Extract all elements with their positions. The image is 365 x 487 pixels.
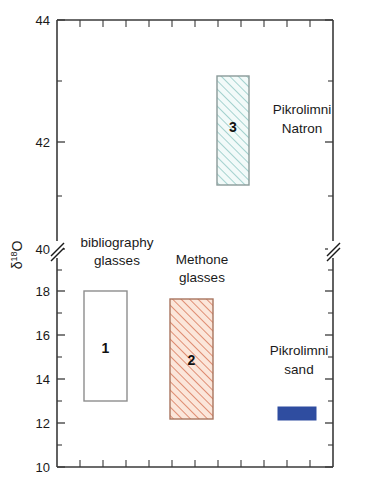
axis-break-left <box>51 241 64 261</box>
y-axis-title: δ18O <box>9 241 25 270</box>
delta-18-o-range-chart: 44 42 40 18 16 14 12 10 δ18O 1 bibliogra… <box>0 0 365 487</box>
y-tick-label-18: 18 <box>36 284 50 299</box>
svg-text:δ18O: δ18O <box>9 241 25 270</box>
y-tick-label-44: 44 <box>36 13 50 28</box>
chart-container: 44 42 40 18 16 14 12 10 δ18O 1 bibliogra… <box>0 0 365 487</box>
annotation-methone-glasses: Methone glasses <box>176 252 229 285</box>
y-tick-label-40: 40 <box>36 242 50 257</box>
annotation-1-line1: bibliography <box>81 235 154 250</box>
y-tick-label-42: 42 <box>36 135 50 150</box>
annotation-bibliography-glasses: bibliography glasses <box>81 235 154 268</box>
axis-break-right <box>327 241 340 261</box>
annotation-4-line2: sand <box>284 362 313 377</box>
series-box-bibliography-glasses[interactable]: 1 <box>84 291 127 401</box>
sand-bar-rect[interactable] <box>278 407 316 420</box>
y-tick-label-14: 14 <box>36 372 50 387</box>
annotation-pikrolimni-natron: Pikrolimni Natron <box>273 102 332 136</box>
series-box-pikrolimni-natron[interactable]: 3 <box>217 76 249 185</box>
annotation-4-line1: Pikrolimni <box>270 343 329 358</box>
y-axis-title-element: O <box>9 241 25 252</box>
y-tick-label-12: 12 <box>36 416 50 431</box>
annotation-pikrolimni-sand: Pikrolimni sand <box>270 343 329 377</box>
annotation-3-line1: Pikrolimni <box>273 102 332 117</box>
box-3-number: 3 <box>229 119 237 135</box>
box-2-number: 2 <box>188 352 196 368</box>
y-tick-label-10: 10 <box>36 460 50 475</box>
series-box-methone-glasses[interactable]: 2 <box>170 299 213 419</box>
y-axis-title-delta: δ <box>9 261 25 269</box>
y-axis-title-superscript: 18 <box>9 252 19 262</box>
y-tick-label-16: 16 <box>36 328 50 343</box>
annotation-2-line1: Methone <box>176 252 229 267</box>
annotation-1-line2: glasses <box>94 253 140 268</box>
annotation-3-line2: Natron <box>282 121 323 136</box>
box-1-number: 1 <box>102 340 110 356</box>
y-tick-labels: 44 42 40 18 16 14 12 10 <box>36 13 50 475</box>
annotation-2-line2: glasses <box>179 270 225 285</box>
series-box-pikrolimni-sand[interactable] <box>278 407 316 420</box>
